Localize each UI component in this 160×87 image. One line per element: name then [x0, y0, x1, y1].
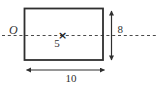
rectangle-dimension-diagram: O × 5 8 10	[0, 0, 160, 87]
width-label: 10	[66, 72, 78, 84]
height-label: 8	[118, 23, 124, 35]
center-distance-label: 5	[54, 37, 60, 49]
origin-label: O	[9, 23, 18, 37]
figure-canvas: O × 5 8 10	[0, 0, 160, 87]
